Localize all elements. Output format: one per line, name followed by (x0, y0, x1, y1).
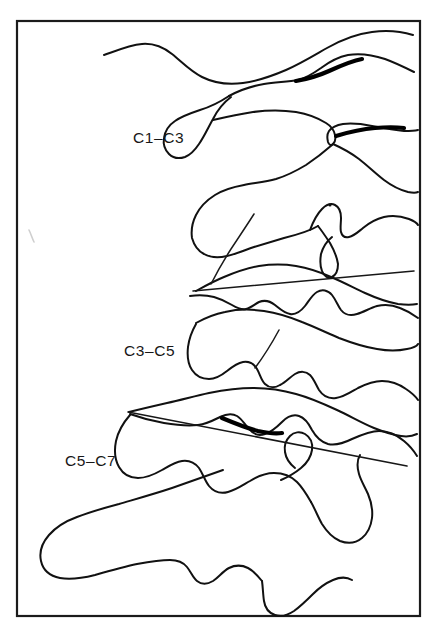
c7-body-outline (262, 578, 352, 616)
lower-reference-line (128, 412, 407, 466)
scan-artifact-mark (29, 230, 34, 242)
c3-spinous-lower-notch (318, 226, 338, 278)
c6-c7-overlap-shadow (222, 418, 282, 433)
c6-uncinate-hook (281, 432, 312, 480)
c3-body-right-contour (333, 144, 418, 193)
c7-spinous-process-outline (40, 470, 262, 584)
ink-speck (328, 203, 331, 206)
c4-superior-surface (196, 265, 417, 305)
c3-spinous-notch (310, 204, 418, 237)
segment-label-c3-c5: C3–C5 (124, 342, 175, 360)
c7-articular-pillar-contour (311, 455, 372, 543)
segment-label-c1-c3: C1–C3 (133, 129, 184, 147)
c5-c6-connector-stroke (255, 330, 279, 368)
upper-reference-line (193, 271, 414, 291)
occiput-contour-line (104, 31, 413, 84)
c2-spinous-process-outline (164, 96, 231, 158)
segment-label-c5-c7: C5–C7 (65, 452, 116, 470)
c5-body-inferior-contour (188, 324, 418, 400)
spine-tracing-svg (0, 0, 434, 632)
figure-canvas: C1–C3 C3–C5 C5–C7 (0, 0, 434, 632)
segment-group-c5-c7 (40, 388, 417, 616)
c4-body-outline (190, 290, 418, 318)
c2-c3-overlap-shadow (336, 127, 404, 136)
c5-body-outline (196, 310, 418, 351)
c3-superior-endplate (192, 145, 332, 257)
